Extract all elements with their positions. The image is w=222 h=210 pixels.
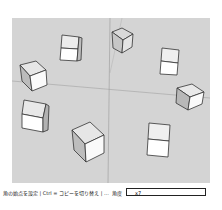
scene-drawing [12,18,210,183]
model-viewport[interactable] [12,18,210,183]
measurement-label: 角度 [112,189,122,196]
measurement-value: x7 [135,190,141,196]
status-hint: 角の始点を設定 | Ctrl = コピーを切り替え | ... [3,189,109,196]
measurement-box[interactable]: x7 [126,188,206,196]
